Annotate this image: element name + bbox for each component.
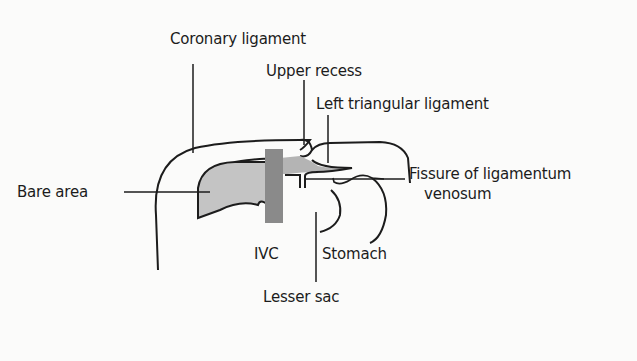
- bare-area-shape: [198, 162, 268, 218]
- label-upper-recess: Upper recess: [266, 63, 362, 80]
- label-lesser-sac: Lesser sac: [263, 289, 339, 306]
- label-ivc: IVC: [254, 246, 279, 263]
- stomach-inner-curve: [320, 190, 340, 232]
- label-coronary-ligament: Coronary ligament: [170, 31, 306, 48]
- ivc-rect: [265, 149, 283, 223]
- left-lobe-outline: [312, 142, 410, 183]
- label-bare-area: Bare area: [17, 184, 88, 201]
- label-fissure-line2: venosum: [424, 186, 491, 203]
- label-stomach: Stomach: [322, 246, 387, 263]
- lesser-sac-right-edge: [305, 172, 318, 188]
- stomach-outer-curve: [370, 178, 386, 243]
- label-left-triangular-ligament: Left triangular ligament: [316, 96, 489, 113]
- liver-peritoneal-diagram: Coronary ligament Upper recess Left tria…: [0, 0, 637, 361]
- lesser-sac-left-edge: [285, 175, 300, 188]
- label-fissure-line1: Fissure of ligamentum: [409, 166, 571, 183]
